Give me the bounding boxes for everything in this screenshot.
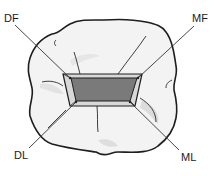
label-ml: ML (181, 152, 196, 163)
tooth-diagram: DF MF DL ML (0, 0, 214, 176)
tooth-illustration (0, 0, 214, 176)
point-angle-marker (69, 77, 71, 79)
point-angle-marker (75, 101, 77, 103)
label-dl: DL (14, 150, 28, 161)
point-angle-marker (129, 101, 131, 103)
point-angle-marker (137, 77, 139, 79)
cavity-floor (71, 78, 137, 101)
label-mf: MF (192, 13, 208, 24)
label-df: DF (4, 13, 19, 24)
